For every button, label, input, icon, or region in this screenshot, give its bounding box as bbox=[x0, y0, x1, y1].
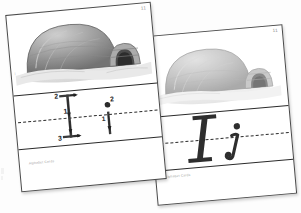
stroke-number-2: 2 bbox=[110, 95, 115, 102]
caption-text: Alphabet Cards bbox=[29, 159, 55, 165]
igloo-icon bbox=[6, 3, 157, 96]
igloo-icon bbox=[144, 25, 288, 117]
lowercase-i-strokes: 2 1 bbox=[100, 95, 117, 134]
stroke-number-3: 3 bbox=[58, 134, 63, 141]
scan-smudge bbox=[1, 176, 3, 180]
stroke-number-1: 1 bbox=[102, 115, 107, 122]
stroke-order-card[interactable]: 11 i bbox=[5, 2, 167, 192]
uppercase-i-strokes: 2 1 3 bbox=[54, 91, 82, 142]
stroke-number-1: 1 bbox=[63, 107, 68, 114]
illustration-panel bbox=[144, 25, 289, 118]
stroke-number-2: 2 bbox=[54, 92, 59, 99]
caption-text: Alphabet Cards bbox=[165, 173, 191, 179]
scan-smudge bbox=[1, 168, 4, 174]
photo-scene: 11 i bbox=[0, 0, 301, 213]
illustration-panel bbox=[6, 3, 157, 97]
